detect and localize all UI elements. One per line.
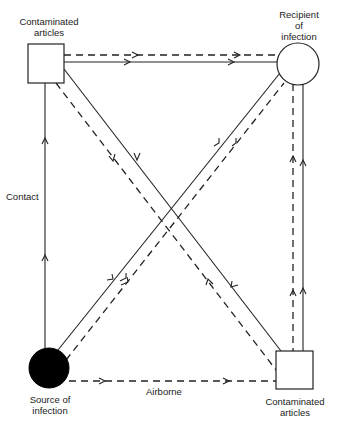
recipient-of-infection-node: [277, 43, 319, 85]
edge-diag-up-airborne: [66, 83, 284, 360]
infection-transmission-diagram: [0, 0, 340, 423]
label-line: Source of: [20, 394, 80, 405]
edge-right-contact: [300, 84, 306, 351]
contact-edge-label: Contact: [6, 191, 39, 202]
edge-right-airborne: [290, 84, 296, 351]
recipient-of-infection-label: Recipient of infection: [271, 9, 327, 42]
label-line: Recipient: [271, 9, 327, 20]
contaminated-articles-top-node: [28, 44, 64, 83]
edge-diag-down-contact: [64, 69, 281, 351]
label-line: articles: [260, 407, 330, 418]
arrow-icon: [132, 52, 138, 58]
edge-top-contact: [64, 59, 277, 65]
arrow-icon: [214, 138, 219, 146]
label-line: Contaminated: [14, 16, 84, 27]
contaminated-articles-top-label: Contaminated articles: [14, 16, 84, 38]
edge-top-airborne: [64, 52, 277, 58]
edge-bottom-airborne: [69, 378, 276, 384]
label-line: of: [271, 20, 327, 31]
arrow-icon: [231, 281, 238, 287]
edge-diag-up-contact: [58, 73, 280, 350]
arrow-icon: [109, 154, 115, 161]
arrow-icon: [232, 138, 236, 146]
arrow-icon: [134, 153, 140, 160]
label-line: infection: [271, 31, 327, 42]
arrow-icon: [120, 273, 126, 281]
contaminated-articles-bottom-node: [276, 351, 313, 389]
source-of-infection-node: [29, 348, 69, 388]
source-of-infection-label: Source of infection: [20, 394, 80, 416]
arrow-icon: [107, 274, 113, 280]
label-line: Contaminated: [260, 396, 330, 407]
edge-diag-down-airborne: [56, 83, 276, 370]
label-line: articles: [14, 27, 84, 38]
edge-left-contact: [42, 83, 48, 348]
airborne-edge-label: Airborne: [146, 386, 182, 397]
contaminated-articles-bottom-label: Contaminated articles: [260, 396, 330, 418]
label-line: infection: [20, 405, 80, 416]
